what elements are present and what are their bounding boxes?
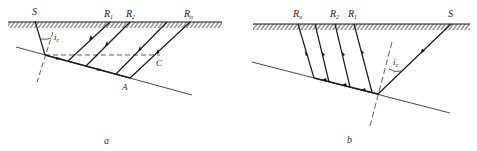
source-label: S — [448, 8, 453, 19]
receiver-label-rn: Rn — [183, 8, 193, 20]
ground-hatching — [253, 24, 470, 30]
receiver-label-r1: R1 — [347, 8, 357, 20]
emergent-ray-r3 — [315, 24, 329, 82]
point-a-label: A — [121, 82, 128, 92]
emergent-ray-r2 — [335, 24, 350, 87]
emergent-ray-rn — [298, 24, 314, 78]
refraction-diagrams: S R1 R2 Rn ic A C a — [0, 0, 477, 151]
caption-a: a — [104, 135, 109, 146]
source-label: S — [32, 6, 37, 17]
critical-angle-label: ic — [54, 32, 60, 43]
diagram-a: S R1 R2 Rn ic A C a — [8, 6, 222, 146]
point-c-label: C — [156, 58, 163, 68]
receiver-label-rn: Rn — [292, 8, 302, 20]
receiver-label-r2: R2 — [329, 8, 339, 20]
angle-arc — [389, 69, 401, 72]
incident-ray — [378, 24, 451, 94]
emergent-ray-r1 — [354, 24, 372, 92]
angle-arc — [41, 38, 51, 39]
receiver-label-r2: R2 — [125, 8, 135, 20]
diagram-b: S Rn R2 R1 ic b — [252, 8, 470, 145]
receiver-label-r1: R1 — [103, 8, 113, 20]
caption-b: b — [347, 134, 352, 145]
critical-angle-label: ic — [393, 57, 399, 68]
